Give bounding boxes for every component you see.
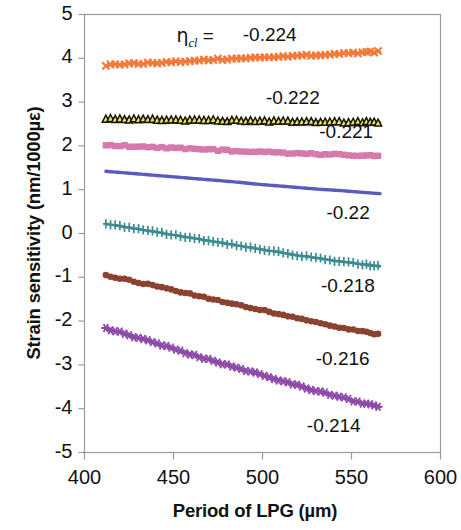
series-annotation-0221: -0.221 <box>319 121 373 143</box>
y-tick-label: -4 <box>27 396 73 419</box>
y-axis-ticks <box>79 15 85 453</box>
x-tick-label: 400 <box>54 466 116 489</box>
eta-equals-sign: = <box>197 25 213 46</box>
axes-frame <box>85 15 441 453</box>
series-annotation-0222: -0.222 <box>266 87 320 109</box>
eta-cl-parameter-label: ηcl = <box>176 24 213 51</box>
series-annotation-022: -0.22 <box>326 202 369 224</box>
y-tick-label: 1 <box>27 177 73 200</box>
y-tick-label: -5 <box>27 440 73 463</box>
x-tick-label: 600 <box>410 466 461 489</box>
y-tick-label: -3 <box>27 352 73 375</box>
series-annotation-0218: -0.218 <box>321 275 375 297</box>
x-tick-label: 450 <box>143 466 205 489</box>
series-annotation-0224: -0.224 <box>243 24 297 46</box>
series-annotation-0216: -0.216 <box>316 348 370 370</box>
x-axis-label: Period of LPG (µm) <box>60 500 450 522</box>
x-tick-label: 500 <box>232 466 294 489</box>
y-tick-label: 3 <box>27 89 73 112</box>
x-tick-label: 550 <box>321 466 383 489</box>
y-tick-label: 4 <box>27 45 73 68</box>
y-tick-label: 5 <box>27 2 73 25</box>
x-axis-ticks <box>85 453 441 460</box>
series-annotation-0214: -0.214 <box>307 415 361 437</box>
y-tick-label: 2 <box>27 133 73 156</box>
eta-symbol: η <box>176 24 188 46</box>
y-tick-label: -2 <box>27 308 73 331</box>
y-tick-label: 0 <box>27 221 73 244</box>
y-tick-label: -1 <box>27 264 73 287</box>
data-point-marker <box>375 153 381 159</box>
data-point-marker <box>375 331 382 338</box>
